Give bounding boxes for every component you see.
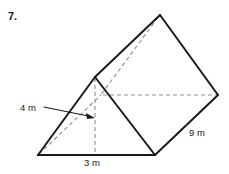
height-leader-arrowhead [86, 113, 95, 119]
front-triangle-right-edge [95, 77, 155, 155]
back-right-lower-edge [155, 95, 218, 155]
back-right-upper-edge [160, 15, 218, 95]
top-ridge-edge [95, 15, 160, 77]
triangular-prism-figure [0, 0, 229, 174]
problem-number: 7. [8, 10, 17, 22]
height-dimension-label: 4 m [20, 102, 36, 113]
base-dimension-label: 3 m [84, 157, 100, 168]
height-leader-line [44, 107, 88, 116]
hidden-edge-lateral-left [39, 95, 101, 154]
figure-page: 7. 4 m 3 m 9 m [0, 0, 229, 174]
hidden-edge-back-left [102, 16, 160, 94]
depth-dimension-label: 9 m [189, 127, 205, 138]
